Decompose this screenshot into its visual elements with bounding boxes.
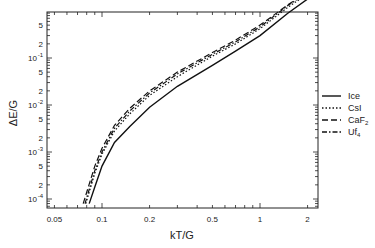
data-curves xyxy=(83,0,307,204)
x-tick-label: 1 xyxy=(258,215,263,224)
legend: IceCsICaF2Uf4 xyxy=(322,91,369,138)
curve-csi xyxy=(86,0,308,204)
y-axis-label: ΔE/G xyxy=(7,100,19,126)
axis-ticks xyxy=(47,12,318,208)
y-tick-label: 10 xyxy=(28,101,37,110)
y-tick-label: 5 xyxy=(39,68,44,77)
legend-label: Ice xyxy=(348,91,360,101)
plot-frame xyxy=(47,12,318,208)
curve-caf xyxy=(83,0,307,204)
y-tick-exponent: -1 xyxy=(38,52,44,58)
x-tick-label: 0.05 xyxy=(47,215,63,224)
y-tick-label: 2 xyxy=(39,87,44,96)
y-tick-label: 10 xyxy=(28,54,37,63)
y-tick-exponent: -3 xyxy=(38,146,44,152)
y-tick-exponent: -4 xyxy=(38,193,44,199)
y-tick-exponent: -2 xyxy=(38,99,44,105)
x-tick-label: 0.1 xyxy=(96,215,108,224)
y-tick-label: 5 xyxy=(39,21,44,30)
axis-tick-labels: 0.050.10.20.51210-42510-32510-22510-125 xyxy=(28,21,310,224)
legend-label: Uf4 xyxy=(348,127,361,138)
chart-root: 0.050.10.20.51210-42510-32510-22510-125 … xyxy=(0,0,375,248)
y-tick-label: 2 xyxy=(39,40,44,49)
y-tick-label: 2 xyxy=(39,134,44,143)
y-tick-label: 5 xyxy=(39,162,44,171)
x-tick-label: 0.5 xyxy=(207,215,219,224)
x-tick-label: 2 xyxy=(305,215,310,224)
x-axis-label: kT/G xyxy=(170,229,194,241)
x-tick-label: 0.2 xyxy=(144,215,156,224)
curve-uf xyxy=(85,0,308,204)
legend-label: CsI xyxy=(348,103,362,113)
y-tick-label: 2 xyxy=(39,181,44,190)
legend-label: CaF2 xyxy=(348,115,369,126)
curve-ice xyxy=(89,0,307,204)
y-tick-label: 10 xyxy=(28,148,37,157)
y-tick-label: 10 xyxy=(28,195,37,204)
y-tick-label: 5 xyxy=(39,115,44,124)
